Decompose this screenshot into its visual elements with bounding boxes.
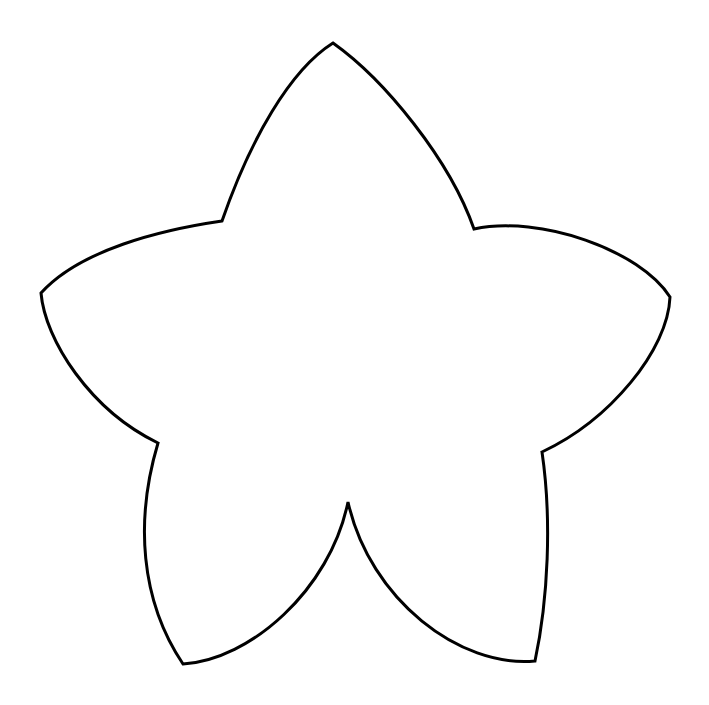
star-outline-graphic xyxy=(0,0,709,705)
star-outline-path xyxy=(41,43,670,664)
drawing-canvas: Five-pointed star/flower outline drawing xyxy=(0,0,709,705)
